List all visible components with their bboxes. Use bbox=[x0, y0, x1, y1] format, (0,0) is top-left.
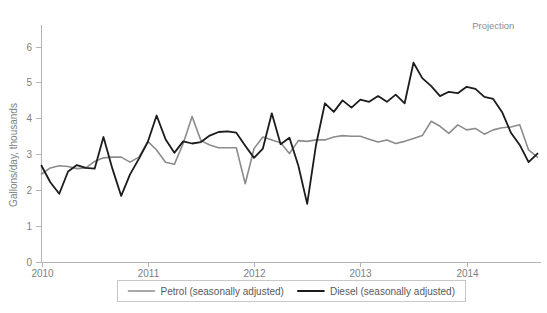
x-tick-label: 2014 bbox=[456, 268, 479, 279]
y-tick-label: 4 bbox=[26, 113, 32, 124]
chart-legend: Petrol (seasonally adjusted) Diesel (sea… bbox=[118, 281, 466, 302]
x-tick-label: 2010 bbox=[31, 268, 54, 279]
y-tick-label: 3 bbox=[26, 149, 32, 160]
y-tick-label: 5 bbox=[26, 77, 32, 88]
y-tick-label: 6 bbox=[26, 42, 32, 53]
y-tick-label: 0 bbox=[26, 257, 32, 268]
projection-annotation: Projection bbox=[472, 20, 514, 31]
x-tick-label: 2012 bbox=[243, 268, 266, 279]
y-axis-title: Gallons/day, thousands bbox=[8, 103, 19, 207]
chart-canvas: 0123456 20102011201220132014 Gallons/day… bbox=[0, 0, 547, 313]
x-tick-label: 2013 bbox=[349, 268, 372, 279]
y-tick-label: 1 bbox=[26, 221, 32, 232]
projection-line-chart: 0123456 20102011201220132014 Gallons/day… bbox=[0, 0, 547, 313]
y-tick-label: 2 bbox=[26, 185, 32, 196]
legend-label-diesel: Diesel (seasonally adjusted) bbox=[330, 286, 455, 297]
legend-label-petrol: Petrol (seasonally adjusted) bbox=[161, 286, 284, 297]
chart-background bbox=[0, 0, 547, 313]
x-tick-label: 2011 bbox=[138, 268, 160, 279]
